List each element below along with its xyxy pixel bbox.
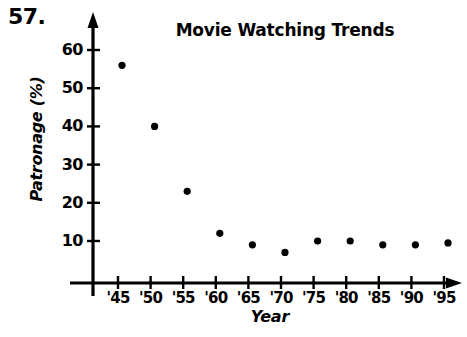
data-point: [216, 230, 223, 237]
data-point: [412, 241, 419, 248]
x-axis-arrow-icon: [446, 278, 462, 289]
data-point: [444, 239, 451, 246]
data-point: [347, 237, 354, 244]
data-point: [379, 241, 386, 248]
y-tick-label: 20: [49, 195, 83, 211]
data-point: [118, 62, 125, 69]
x-tick-label: '95: [424, 291, 464, 306]
data-point: [184, 188, 191, 195]
data-point: [151, 123, 158, 130]
figure-scatter-chart: 57. Movie Watching Trends Patronage (%) …: [0, 0, 467, 337]
y-axis-arrow-icon: [88, 12, 99, 28]
axes-group: [70, 12, 462, 296]
data-point: [314, 237, 321, 244]
data-point: [249, 241, 256, 248]
y-tick-label: 30: [49, 157, 83, 173]
y-tick-label: 40: [49, 118, 83, 134]
data-point: [281, 249, 288, 256]
data-point-group: [118, 62, 451, 256]
y-tick-label: 50: [49, 80, 83, 96]
y-tick-label: 60: [49, 42, 83, 58]
y-tick-label: 10: [49, 233, 83, 249]
